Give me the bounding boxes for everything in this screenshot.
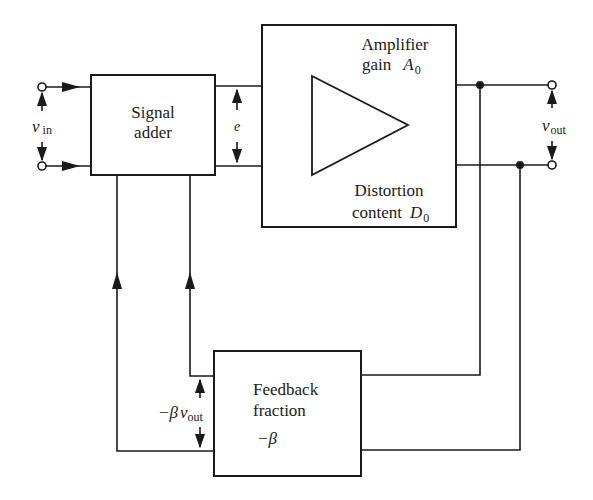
signal-adder-label-line1: Signal: [131, 103, 175, 122]
amplifier-block: Amplifier gainA0 Distortion contentD0: [262, 25, 456, 227]
feedback-label-line2: fraction: [253, 401, 306, 420]
return-arrow-outer-icon: [112, 272, 122, 289]
distortion-label: Distortion: [355, 181, 424, 200]
feedback-voltage-label: −βvout: [158, 403, 204, 424]
input-arrow-bottom-icon: [62, 161, 80, 171]
return-line-inner: [190, 175, 214, 376]
error-label: e: [234, 119, 240, 134]
signal-adder-label-line2: adder: [134, 123, 172, 142]
feedback-beta-label: −β: [257, 429, 277, 448]
feedback-return-lines: −βvout: [112, 175, 214, 451]
distortion-content-label: contentD0: [352, 203, 429, 225]
signal-adder-block: Signal adder: [91, 75, 215, 175]
output-section: vout: [456, 81, 567, 169]
vout-label: vout: [542, 116, 567, 137]
amplifier-label: Amplifier: [361, 35, 428, 54]
input-section: vin: [32, 82, 91, 171]
input-terminal-top: [38, 83, 46, 91]
feedback-block: Feedback fraction −β: [214, 351, 361, 476]
return-arrow-inner-icon: [185, 272, 195, 289]
output-terminal-top: [548, 81, 556, 89]
input-arrow-top-icon: [62, 82, 80, 92]
feedback-amplifier-diagram: vin Signal adder e Amplifier gainA0 Dist…: [0, 0, 593, 500]
vin-label: vin: [32, 117, 52, 137]
output-terminal-bottom: [548, 161, 556, 169]
error-section: e: [215, 86, 262, 166]
input-terminal-bottom: [38, 162, 46, 170]
feedback-label-line1: Feedback: [253, 380, 319, 399]
